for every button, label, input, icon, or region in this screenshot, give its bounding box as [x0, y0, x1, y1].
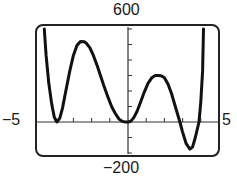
y-min-label: −200: [103, 160, 139, 176]
x-min-label: −5: [2, 112, 20, 128]
y-max-label: 600: [113, 2, 140, 18]
function-curve: [44, 29, 203, 149]
chart-plot: [0, 0, 237, 184]
x-max-label: 5: [222, 112, 231, 128]
